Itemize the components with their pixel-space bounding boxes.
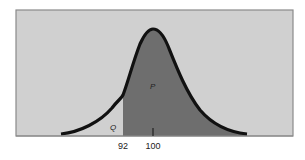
tick-label-92: 92 <box>118 141 128 151</box>
tick-label-100: 100 <box>145 141 160 151</box>
region-label-p: P <box>150 82 156 91</box>
region-label-q: Q <box>110 123 116 132</box>
normal-distribution-chart: P Q 92 100 <box>0 0 305 160</box>
